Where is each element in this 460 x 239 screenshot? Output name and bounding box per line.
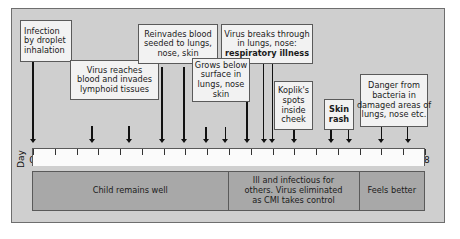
leader-line-breaks-b (272, 63, 274, 140)
leader-line-infection (32, 62, 34, 140)
phase-0-line-0: Child remains well (93, 186, 168, 196)
callout-danger-bacteria: Danger from bacteria in damaged areas of… (360, 74, 428, 127)
leader-line-virus-reaches-a (91, 126, 93, 140)
callout-reinvades-line-2: nose, skin (157, 49, 198, 59)
arrowhead-danger-a (378, 139, 384, 143)
axis-tick-3 (98, 149, 99, 155)
axis-tick-7 (185, 149, 186, 155)
axis-tick-0 (33, 149, 34, 155)
callout-infection: Infection by droplet inhalation (20, 20, 72, 62)
leader-line-reinvades-a (161, 67, 163, 140)
callout-grows-line-3: skin (213, 90, 229, 100)
axis-tick-12 (294, 149, 295, 155)
axis-tick-2 (77, 149, 78, 155)
arrowhead-reinvades-a (159, 139, 165, 143)
arrowhead-breaks-a (261, 139, 267, 143)
axis-tick-1 (55, 149, 56, 155)
axis-label-day: Day (14, 148, 30, 168)
arrowhead-breaks-b (269, 139, 275, 143)
phase-segment-feels-better: Feels better (359, 171, 426, 211)
axis-tick-4 (120, 149, 121, 155)
axis-tick-5 (142, 149, 143, 155)
axis-tick-6 (164, 149, 165, 155)
leader-line-reinvades-b (183, 67, 185, 140)
arrowhead-infection (30, 139, 36, 143)
arrowhead-virus-reaches-b (126, 139, 132, 143)
arrowhead-rash-a (328, 139, 334, 143)
axis-tick-15 (360, 149, 361, 155)
callout-virus-reaches-line-2: lymphoid tissues (80, 85, 149, 95)
axis-tick-16 (381, 149, 382, 155)
phase-bar: Child remains well Ill and infectious fo… (32, 171, 425, 211)
callout-infection-line-2: inhalation (24, 46, 65, 56)
callout-breaks-line-2: respiratory illness (225, 49, 309, 59)
callout-grows-below-surface: Grows below surface in lungs, nose skin (192, 58, 250, 102)
callout-virus-reaches-blood: Virus reaches blood and invades lymphoid… (70, 60, 159, 100)
arrowhead-danger-b (405, 139, 411, 143)
arrowhead-grows-b (222, 139, 228, 143)
phase-2-line-0: Feels better (367, 186, 416, 196)
callout-skin-rash: Skin rash (324, 99, 354, 130)
callout-rash-line-1: rash (329, 115, 349, 125)
phase-segment-child-remains-well: Child remains well (32, 171, 229, 211)
axis-tick-17 (403, 149, 404, 155)
arrowhead-grows-c (244, 139, 250, 143)
phase-1-line-2: as CMI takes control (252, 196, 335, 206)
arrowhead-rash-b (346, 139, 352, 143)
axis-tick-11 (273, 149, 274, 155)
measles-timeline-figure: Infection by droplet inhalation Virus re… (0, 0, 460, 239)
callout-kopliks-spots: Koplik's spots inside cheek (274, 81, 313, 130)
day-axis (32, 148, 425, 166)
leader-line-virus-reaches-b (128, 126, 130, 140)
axis-tick-8 (207, 149, 208, 155)
axis-tick-10 (251, 149, 252, 155)
axis-tick-18 (425, 149, 426, 155)
arrowhead-kopliks (291, 139, 297, 143)
phase-segment-ill-and-infectious: Ill and infectious for others. Virus eli… (228, 171, 360, 211)
arrowhead-grows-a (203, 139, 209, 143)
callout-kopliks-line-3: cheek (281, 115, 306, 125)
leader-line-breaks-a (263, 63, 265, 140)
axis-label-day-text: Day (16, 150, 26, 168)
axis-tick-14 (338, 149, 339, 155)
leader-line-grows-c (246, 101, 248, 140)
callout-danger-line-3: lungs, nose etc. (362, 110, 427, 120)
arrowhead-reinvades-b (181, 139, 187, 143)
axis-tick-9 (229, 149, 230, 155)
axis-tick-13 (316, 149, 317, 155)
arrowhead-virus-reaches-a (89, 139, 95, 143)
